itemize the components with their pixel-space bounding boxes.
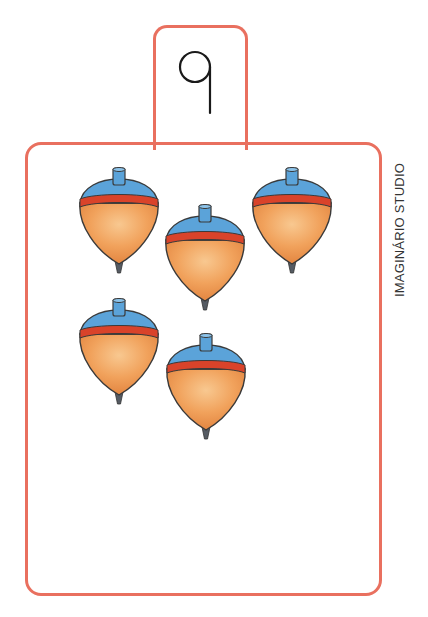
spinning-top-icon xyxy=(76,298,162,406)
spinning-top-icon xyxy=(249,167,335,275)
spinning-top-icon xyxy=(163,333,249,441)
credit-text: IMAGINÁRIO STUDIO xyxy=(392,163,407,297)
spinning-top-icon xyxy=(76,167,162,275)
spinning-top-icon xyxy=(162,204,248,312)
numeral-nine: 9 xyxy=(153,40,248,120)
